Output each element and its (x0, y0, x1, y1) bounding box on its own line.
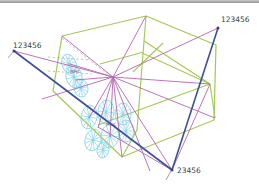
model-canvas[interactable]: MHCMHC12345612345623456 (0, 3, 259, 189)
constraint-nodes (13, 27, 220, 172)
app-window: MHCMHC12345612345623456 (0, 0, 259, 189)
spring-wheel-cluster: MHC (59, 52, 89, 98)
node-marker (171, 169, 174, 172)
node-marker (13, 50, 16, 53)
element-label: MHC (70, 69, 80, 74)
dof-constraint-label: 123456 (13, 41, 42, 50)
node-marker (217, 27, 220, 30)
constraint-vector-lines (14, 28, 218, 170)
dof-constraint-label: 123456 (221, 15, 250, 24)
spring-wheel-icon (82, 127, 103, 152)
dof-constraint-label: 23456 (177, 166, 201, 175)
rigid-element-lines (14, 16, 218, 171)
model-viewport[interactable]: MHCMHC12345612345623456 (0, 3, 259, 189)
